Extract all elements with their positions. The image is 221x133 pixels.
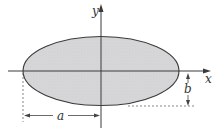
semi-minor-label: b (184, 82, 192, 96)
ellipse-diagram: y x a b (0, 0, 221, 133)
a-right-arrow-icon (94, 114, 100, 118)
y-axis-label: y (91, 4, 99, 18)
x-axis-label: x (205, 72, 212, 86)
a-left-arrow-icon (24, 114, 30, 118)
b-top-arrow-icon (186, 73, 190, 79)
b-bottom-arrow-icon (186, 100, 190, 106)
semi-major-label: a (57, 109, 64, 123)
y-axis-arrow-icon (99, 4, 104, 12)
